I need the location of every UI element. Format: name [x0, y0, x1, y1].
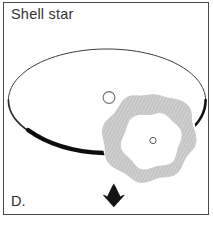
motion-arrow-icon: [103, 184, 125, 208]
figure-panel: Shell star D.: [0, 0, 213, 228]
shell-star-diagram: [0, 0, 213, 228]
companion-point-icon: [103, 92, 115, 104]
panel-letter-label: D.: [11, 193, 26, 209]
central-star-icon: [150, 137, 156, 143]
shell-ring: [102, 95, 196, 183]
panel-title: Shell star: [11, 6, 73, 22]
